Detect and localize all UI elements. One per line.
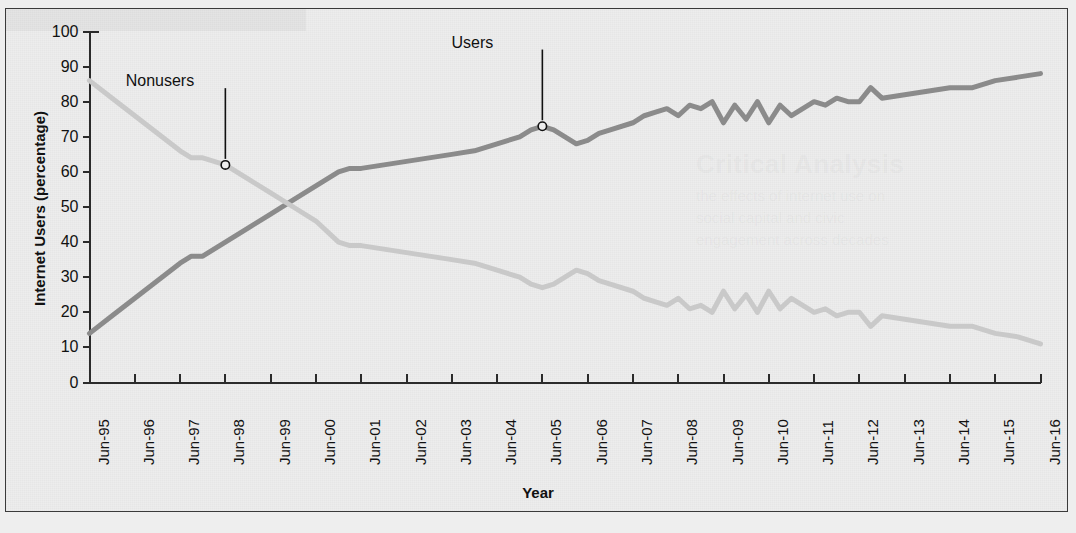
series-line-nonusers <box>90 81 1041 344</box>
annotation-marker-open-circle <box>538 122 546 130</box>
series-line-users <box>90 74 1041 334</box>
series-group <box>90 74 1041 344</box>
chart-plot-area <box>0 0 1076 533</box>
axes-group <box>83 32 1041 383</box>
axis-spines <box>90 32 1041 383</box>
annotation-group <box>221 50 546 170</box>
figure-root: Critical Analysis the effects of interne… <box>0 0 1076 533</box>
annotation-marker-open-circle <box>221 161 229 169</box>
